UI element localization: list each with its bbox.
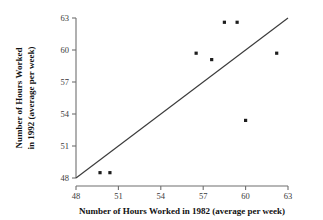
data-point-marker	[98, 171, 101, 174]
x-tick-label: 57	[199, 191, 208, 201]
x-tick-label: 48	[72, 191, 81, 201]
data-point-marker	[223, 21, 226, 24]
y-tick-label: 48	[61, 173, 70, 183]
x-tick-label: 60	[241, 191, 250, 201]
data-point-marker	[236, 21, 239, 24]
x-tick-label: 54	[157, 191, 166, 201]
identity-reference-line	[76, 18, 288, 178]
data-point-marker	[275, 52, 278, 55]
x-axis: 485154576063	[72, 186, 293, 201]
reference-line	[76, 18, 288, 178]
y-tick-label: 60	[61, 45, 70, 55]
x-tick-label: 63	[284, 191, 293, 201]
data-point-marker	[108, 171, 111, 174]
x-tick-label: 51	[114, 191, 123, 201]
scatter-plot-figure: 485154576063 485154576063 Number of Hour…	[0, 0, 323, 220]
data-point-marker	[244, 119, 247, 122]
y-axis: 485154576063	[61, 13, 77, 183]
y-tick-label: 63	[61, 13, 70, 23]
x-axis-title: Number of Hours Worked in 1982 (average …	[79, 206, 285, 216]
y-axis-title-line2: in 1992 (average per week)	[26, 47, 36, 150]
y-axis-title-line1: Number of Hours Worked	[14, 48, 24, 149]
data-point-marker	[210, 58, 213, 61]
plot-canvas: 485154576063 485154576063 Number of Hour…	[0, 0, 323, 220]
data-point-marker	[195, 52, 198, 55]
y-tick-label: 54	[61, 109, 70, 119]
y-tick-label: 51	[61, 141, 70, 151]
y-tick-label: 57	[61, 77, 70, 87]
data-points	[98, 21, 278, 175]
